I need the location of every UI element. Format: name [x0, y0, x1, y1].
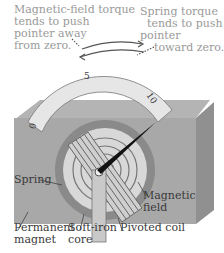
magnetic-field-label: Magnetic field	[143, 190, 196, 214]
spring-label: Spring	[14, 174, 51, 186]
magnetic-torque-annotation: Magnetic-field torque tends to push poin…	[14, 4, 135, 52]
magnet-right-face	[196, 102, 214, 224]
spring-torque-annotation: Spring torque tends to push pointer towa…	[140, 6, 224, 54]
permanent-magnet-label: Permanent magnet	[14, 222, 75, 246]
pivoted-coil-label: Pivoted coil	[120, 222, 185, 234]
scale-label-5: 5	[84, 70, 90, 82]
soft-iron-core-label: Soft-iron core	[68, 222, 117, 246]
